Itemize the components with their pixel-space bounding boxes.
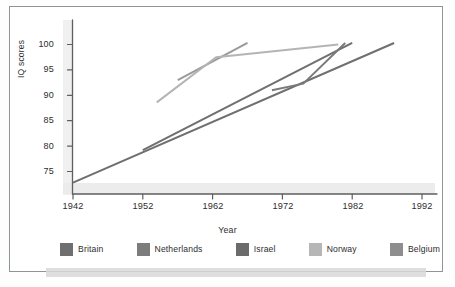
axis-lines (73, 20, 438, 194)
legend-swatch-britain (60, 243, 73, 256)
legend-label-belgium: Belgium (408, 244, 440, 254)
axis-ticks (68, 45, 423, 200)
legend-swatch-netherlands (137, 243, 150, 256)
legend-label-netherlands: Netherlands (155, 244, 203, 254)
legend-item-belgium[interactable]: Belgium (390, 243, 440, 256)
legend-item-israel[interactable]: Israel (236, 243, 276, 256)
series-line-britain (73, 43, 394, 183)
series-line-israel (178, 43, 248, 80)
legend-swatch-belgium (390, 243, 403, 256)
legend: Britain Netherlands Israel Norway Belgiu… (60, 239, 440, 259)
legend-label-norway: Norway (327, 244, 357, 254)
legend-swatch-israel (236, 243, 249, 256)
series-lines (73, 43, 394, 183)
legend-item-britain[interactable]: Britain (60, 243, 103, 256)
legend-label-britain: Britain (78, 244, 103, 254)
legend-item-norway[interactable]: Norway (309, 243, 357, 256)
legend-swatch-norway (309, 243, 322, 256)
series-line-norway (157, 45, 338, 103)
legend-label-israel: Israel (254, 244, 276, 254)
series-line-netherlands (143, 43, 352, 150)
legend-item-netherlands[interactable]: Netherlands (137, 243, 203, 256)
chart-figure: IQ scores Year 100 95 90 85 80 75 1942 1… (0, 0, 455, 287)
